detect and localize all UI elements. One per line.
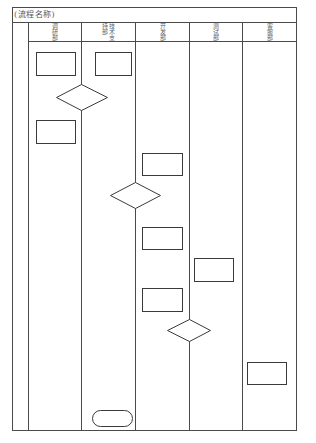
decision-diamond-2 <box>111 183 161 209</box>
process-box-8 <box>248 363 287 385</box>
process-box-2 <box>96 53 132 76</box>
process-box-4 <box>143 154 183 176</box>
terminator <box>93 411 133 427</box>
lane-header-research: 调研部 <box>29 23 81 41</box>
lane-header-tech-support: 技术支持部 <box>82 23 135 41</box>
swimlane-flowchart <box>0 0 316 443</box>
lane-header-development: 开发部 <box>136 23 189 41</box>
process-box-5 <box>143 228 183 250</box>
decision-diamond-1 <box>57 85 108 111</box>
diagram-title: (流程名称) <box>14 8 55 19</box>
lane-header-label: 调研部 <box>52 23 59 41</box>
decision-diamond-3 <box>168 320 211 342</box>
lane-header-label: 开发部 <box>159 23 166 41</box>
lane-header-testing: 测试部 <box>190 23 242 41</box>
process-box-3 <box>37 121 76 144</box>
lane-header-label: 技术支持部 <box>102 23 116 41</box>
process-box-7 <box>143 289 183 312</box>
lane-header-customer-service: 客服部 <box>243 23 296 41</box>
process-box-6 <box>195 259 234 282</box>
lane-header-label: 测试部 <box>213 23 220 41</box>
lane-header-label: 客服部 <box>266 23 273 41</box>
process-box-1 <box>37 53 76 76</box>
